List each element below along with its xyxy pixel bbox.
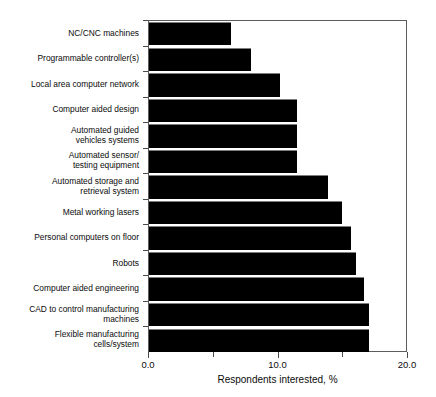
- x-tick-label: 10.0: [268, 359, 287, 370]
- bar: [149, 329, 369, 352]
- category-label: Computer aided engineering: [0, 275, 143, 301]
- category-label: CAD to control manufacturing machines: [0, 301, 143, 327]
- x-tick-label: 20.0: [398, 359, 417, 370]
- category-tick: [143, 250, 148, 251]
- chart-figure: NC/CNC machinesProgrammable controller(s…: [0, 0, 436, 397]
- bar: [149, 303, 369, 326]
- category-label: Local area computer network: [0, 71, 143, 97]
- x-axis: 0.010.020.0: [148, 352, 407, 353]
- category-label: Metal working lasers: [0, 199, 143, 225]
- category-tick: [143, 97, 148, 98]
- bar: [149, 73, 280, 96]
- x-tick: [407, 352, 408, 358]
- bar: [149, 22, 231, 45]
- x-tick-minor: [213, 352, 214, 357]
- category-label: Automated sensor/ testing equipment: [0, 148, 143, 174]
- category-label: Automated storage and retrieval system: [0, 173, 143, 199]
- category-tick: [143, 224, 148, 225]
- category-label: Computer aided design: [0, 97, 143, 123]
- category-tick: [143, 71, 148, 72]
- category-tick: [143, 275, 148, 276]
- bars-layer: [149, 21, 406, 351]
- category-label: NC/CNC machines: [0, 20, 143, 46]
- bar: [149, 226, 351, 249]
- category-label: Robots: [0, 250, 143, 276]
- chart-title: [118, 0, 328, 3]
- category-tick: [143, 173, 148, 174]
- x-axis-title: Respondents interested, %: [148, 374, 407, 385]
- bar: [149, 99, 297, 122]
- category-tick: [143, 148, 148, 149]
- category-label: Automated guided vehicles systems: [0, 122, 143, 148]
- category-label: Personal computers on floor: [0, 224, 143, 250]
- category-tick: [143, 199, 148, 200]
- bar: [149, 150, 297, 173]
- category-tick: [143, 46, 148, 47]
- bar: [149, 175, 328, 198]
- bar: [149, 124, 297, 147]
- category-tick: [143, 301, 148, 302]
- bar: [149, 201, 342, 224]
- category-label: Programmable controller(s): [0, 46, 143, 72]
- x-tick: [278, 352, 279, 358]
- category-axis: NC/CNC machinesProgrammable controller(s…: [0, 20, 143, 352]
- category-tick: [143, 122, 148, 123]
- x-tick-label: 0.0: [141, 359, 154, 370]
- x-tick-minor: [342, 352, 343, 357]
- x-tick: [148, 352, 149, 358]
- bar: [149, 48, 251, 71]
- bar: [149, 252, 356, 275]
- category-tick: [143, 20, 148, 21]
- category-tick: [143, 326, 148, 327]
- category-label: Flexible manufacturing cells/system: [0, 326, 143, 352]
- bar: [149, 277, 364, 300]
